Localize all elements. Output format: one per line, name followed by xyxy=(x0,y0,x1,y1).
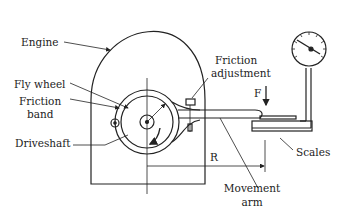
scale-dial xyxy=(292,32,326,66)
label-friction-band-line1: Friction xyxy=(19,95,61,107)
label-movement-arm-line2: arm xyxy=(222,196,282,208)
movement-arm xyxy=(178,110,262,118)
flywheel xyxy=(115,78,179,194)
label-engine: Engine xyxy=(21,36,58,48)
prony-brake-diagram: Engine Fly wheel Friction band Driveshaf… xyxy=(0,0,344,217)
label-driveshaft: Driveshaft xyxy=(15,137,70,149)
label-scales: Scales xyxy=(296,146,330,158)
label-friction-adjustment-line2: adjustment xyxy=(211,67,271,79)
scale-base xyxy=(252,121,312,131)
scale-pan xyxy=(260,116,296,119)
label-friction-band-line2: band xyxy=(27,108,53,120)
label-friction-adjustment-line1: Friction xyxy=(215,54,257,66)
label-movement-arm-line1: Movement xyxy=(222,182,282,194)
label-force: F xyxy=(254,87,261,99)
friction-adjustment-bolt xyxy=(186,99,195,105)
label-radius: R xyxy=(210,151,218,163)
label-fly-wheel: Fly wheel xyxy=(14,78,65,90)
engine-housing xyxy=(91,32,205,184)
